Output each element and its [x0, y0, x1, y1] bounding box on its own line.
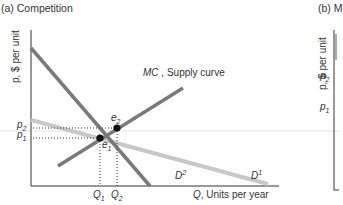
- q1-sub: 1: [101, 195, 105, 202]
- mc-rest: , Supply curve: [159, 67, 225, 78]
- q2-tick-label: Q2: [111, 189, 123, 202]
- x-axis-label: Q, Units per year: [193, 189, 269, 200]
- panel-a-title: (a) Competition: [1, 2, 73, 14]
- demand-curve-d2: [31, 48, 150, 186]
- e1-sub: 1: [108, 145, 112, 152]
- panel-a-y-axis-label: p, $ per unit: [10, 30, 21, 83]
- q1-tick-label: Q1: [93, 189, 105, 202]
- b-p2-sub: 2: [326, 76, 330, 83]
- p1-sub: 1: [23, 135, 27, 142]
- d2-label: D2: [175, 169, 186, 181]
- q2-base: Q: [111, 189, 119, 200]
- demand-curve-d1: [31, 120, 268, 184]
- d2-sup: 2: [182, 169, 186, 176]
- p1-tick-label: p1: [17, 129, 26, 142]
- b-p1-sub: 1: [326, 107, 330, 114]
- e2-sub: 2: [117, 118, 121, 125]
- y-axis-label-text: p, $ per unit: [10, 30, 21, 83]
- panel-b-title: (b) M: [318, 2, 343, 14]
- q2-sub: 2: [119, 195, 123, 202]
- equilibrium-e2-dot: [113, 124, 120, 131]
- x-axis-var: Q: [193, 189, 201, 200]
- e1-label: e1: [102, 139, 111, 152]
- x-axis-rest: , Units per year: [201, 189, 269, 200]
- panel-b-p2-label: p2: [320, 70, 329, 83]
- q1-base: Q: [93, 189, 101, 200]
- e2-label: e2: [111, 112, 120, 125]
- panel-b-p1-label: p1: [320, 101, 329, 114]
- d1-label: D1: [251, 169, 262, 181]
- mc-label: MC , Supply curve: [143, 67, 225, 78]
- mc-var: MC: [143, 67, 159, 78]
- d1-sup: 1: [258, 169, 262, 176]
